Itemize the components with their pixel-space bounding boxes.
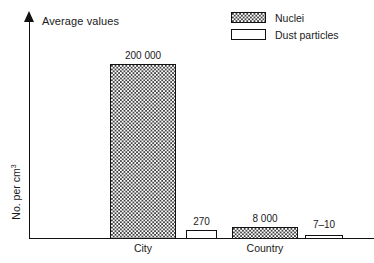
legend-swatch-dust-particles-icon	[231, 29, 266, 40]
bar-value-label-country-nuclei: 8 000	[232, 213, 298, 224]
bar-city-dust	[186, 230, 217, 239]
y-axis-line	[29, 20, 30, 239]
bar-value-label-country-dust: 7–10	[305, 219, 343, 230]
bar-value-label-city-dust: 270	[186, 216, 217, 227]
bar-value-label-city-nuclei: 200 000	[110, 50, 176, 61]
y-axis-title: No. per cm3	[10, 152, 22, 232]
bar-city-nuclei	[110, 64, 176, 239]
bar-chart: Average values No. per cm3 200 000 270 8…	[0, 0, 374, 263]
x-tick-label-country: Country	[230, 242, 300, 254]
legend-item-dust-particles: Dust particles	[231, 26, 339, 43]
legend-item-nuclei: Nuclei	[231, 9, 339, 26]
average-values-annotation: Average values	[42, 15, 119, 27]
bar-country-dust	[305, 235, 343, 239]
legend-label-dust-particles: Dust particles	[275, 29, 339, 41]
x-tick-label-city: City	[113, 242, 173, 254]
y-axis-title-superscript: 3	[10, 164, 17, 168]
legend: Nuclei Dust particles	[231, 9, 339, 43]
legend-label-nuclei: Nuclei	[275, 12, 304, 24]
legend-swatch-nuclei-icon	[231, 12, 266, 23]
bar-country-nuclei	[232, 227, 298, 239]
y-axis-title-text: No. per cm	[10, 168, 22, 219]
